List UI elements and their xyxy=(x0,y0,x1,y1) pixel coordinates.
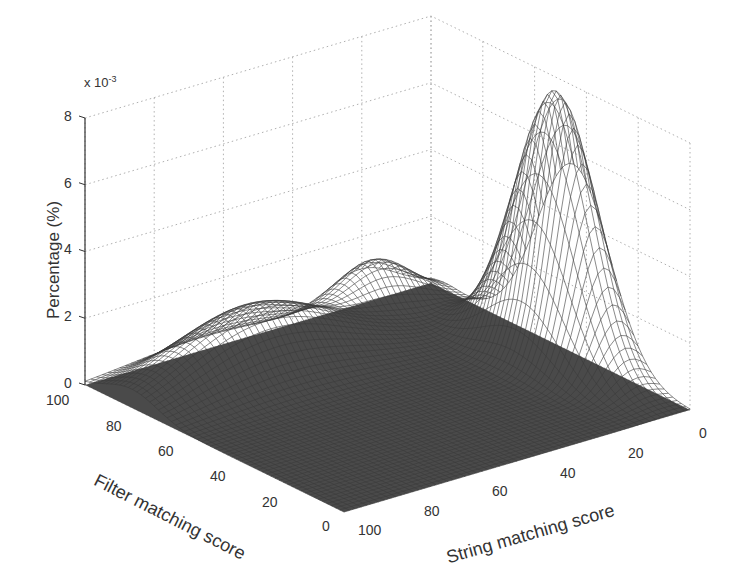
surface-mesh xyxy=(85,91,690,512)
y-tick-20: 20 xyxy=(262,494,278,510)
x-tick-60: 60 xyxy=(492,483,508,499)
z-axis-label: Percentage (%) xyxy=(44,201,64,319)
x-tick-0: 0 xyxy=(699,425,707,441)
z-multiplier: x 10-3 xyxy=(84,74,117,90)
y-tick-0: 0 xyxy=(322,518,330,534)
z-tick-8: 8 xyxy=(64,108,72,124)
z-tick-6: 6 xyxy=(64,175,72,191)
z-tick-0: 0 xyxy=(64,375,72,391)
z-tick-2: 2 xyxy=(64,308,72,324)
y-tick-80: 80 xyxy=(106,418,122,434)
y-tick-100: 100 xyxy=(46,392,69,408)
z-tick-4: 4 xyxy=(64,241,72,257)
y-tick-60: 60 xyxy=(158,443,174,459)
x-tick-80: 80 xyxy=(424,503,440,519)
x-tick-40: 40 xyxy=(560,465,576,481)
axes xyxy=(79,116,85,385)
x-tick-20: 20 xyxy=(628,445,644,461)
x-tick-100: 100 xyxy=(358,522,381,538)
y-tick-40: 40 xyxy=(210,468,226,484)
